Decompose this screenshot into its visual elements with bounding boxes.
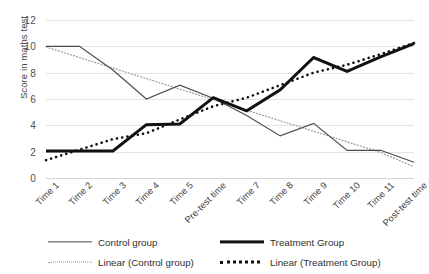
y-axis-tick-labels: 024681012 — [0, 20, 40, 178]
x-tick-time-9: Time 9 — [301, 180, 328, 207]
y-tick-12: 12 — [24, 15, 36, 26]
gridline-0 — [46, 178, 414, 179]
legend-row-trendlines: Linear (Control group) Linear (Treatment… — [48, 252, 408, 272]
y-tick-4: 4 — [30, 120, 36, 131]
legend-swatch-linear-control-group — [48, 257, 92, 268]
y-tick-2: 2 — [30, 146, 36, 157]
legend-row-series: Control group Treatment Group — [48, 232, 408, 252]
x-tick-time-1: Time 1 — [34, 180, 61, 207]
legend-label-treatment-group: Treatment Group — [270, 237, 344, 248]
chart-legend: Control group Treatment Group Linear (Co… — [48, 232, 408, 272]
legend-label-linear-treatment-group: Linear (Treatment Group) — [270, 257, 381, 268]
legend-swatch-linear-treatment-group — [220, 257, 264, 268]
legend-item-treatment-group[interactable]: Treatment Group — [220, 237, 344, 248]
x-tick-time-10: Time 10 — [331, 180, 362, 211]
series-treatment-group — [46, 44, 414, 151]
x-tick-time-11: Time 11 — [365, 180, 396, 211]
legend-item-linear-control-group[interactable]: Linear (Control group) — [48, 257, 220, 268]
legend-label-linear-control-group: Linear (Control group) — [98, 257, 194, 268]
x-tick-time-3: Time 3 — [101, 180, 128, 207]
series-linear-treatment-group- — [46, 43, 414, 160]
x-tick-time-8: Time 8 — [268, 180, 295, 207]
x-axis-tick-labels: Time 1Time 2Time 3Time 4Time 5Pre-test t… — [46, 180, 414, 236]
y-tick-0: 0 — [30, 173, 36, 184]
x-tick-time-5: Time 5 — [168, 180, 195, 207]
x-tick-time-4: Time 4 — [134, 180, 161, 207]
y-tick-8: 8 — [30, 67, 36, 78]
legend-label-control-group: Control group — [98, 237, 157, 248]
legend-swatch-control-group — [48, 237, 92, 248]
legend-item-control-group[interactable]: Control group — [48, 237, 220, 248]
legend-item-linear-treatment-group[interactable]: Linear (Treatment Group) — [220, 257, 381, 268]
plot-area — [46, 20, 414, 178]
x-tick-time-2: Time 2 — [67, 180, 94, 207]
y-tick-10: 10 — [24, 41, 36, 52]
series-lines — [46, 20, 414, 178]
x-tick-time-7: Time 7 — [234, 180, 261, 207]
y-tick-6: 6 — [30, 94, 36, 105]
legend-swatch-treatment-group — [220, 237, 264, 248]
